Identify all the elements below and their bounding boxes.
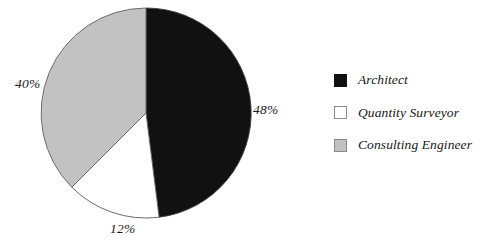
pie-slice-architect[interactable] <box>146 8 251 217</box>
black-swatch-icon <box>334 74 347 87</box>
pie-chart-plot-area: 48% 40% 12% <box>0 0 300 246</box>
legend-item-label: Architect <box>358 72 408 88</box>
legend-item-label: Quantity Surveyor <box>358 105 459 121</box>
slice-value-label-quantity-surveyor: 12% <box>110 221 135 237</box>
legend-item-consulting-engineer[interactable]: Consulting Engineer <box>334 129 480 162</box>
legend-item-architect[interactable]: Architect <box>334 64 480 97</box>
slice-value-label-architect: 48% <box>253 102 278 118</box>
pie-chart-figure: 48% 40% 12% Architect Quantity Surveyor … <box>0 0 480 246</box>
slice-value-label-consulting-engineer: 40% <box>15 76 40 92</box>
legend-item-quantity-surveyor[interactable]: Quantity Surveyor <box>334 97 480 130</box>
pie-chart-svg <box>0 0 300 246</box>
gray-swatch-icon <box>334 139 347 152</box>
white-swatch-icon <box>334 106 347 119</box>
legend-item-label: Consulting Engineer <box>358 137 472 153</box>
chart-legend: Architect Quantity Surveyor Consulting E… <box>334 64 480 162</box>
